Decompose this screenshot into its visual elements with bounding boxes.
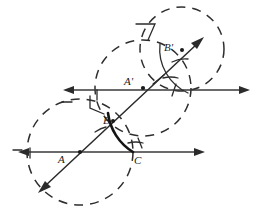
geometry-canvas: A B C A' B' (0, 0, 266, 213)
label-point-C: C (134, 154, 142, 166)
upper-line-right-arrowhead (239, 86, 250, 94)
lower-line-left-arrowhead (18, 148, 29, 156)
compass-width-tick-at-C (128, 142, 143, 143)
angle-corner-mark-upper (136, 24, 155, 40)
vertex-dot-B-prime (180, 48, 184, 52)
transversal-tick-upper (153, 75, 164, 84)
vertex-dot-A-prime (141, 86, 145, 90)
lower-line-right-arrowhead (194, 148, 205, 156)
compass-width-tick-at-A-prime (163, 77, 178, 78)
label-point-A-prime: A' (123, 75, 134, 87)
lower-parallel-line (18, 148, 205, 158)
label-point-A: A (57, 153, 65, 165)
transversal-line (38, 37, 204, 193)
vertex-dot-B (111, 119, 115, 123)
geometry-diagram: A B C A' B' (0, 0, 266, 213)
label-point-B: B (103, 114, 110, 126)
vertex-dot-A (78, 150, 82, 154)
label-point-B-prime: B' (164, 41, 174, 53)
transversal-line-segment (45, 44, 197, 186)
upper-line-left-arrowhead (63, 86, 74, 94)
upper-parallel-line (63, 86, 250, 100)
